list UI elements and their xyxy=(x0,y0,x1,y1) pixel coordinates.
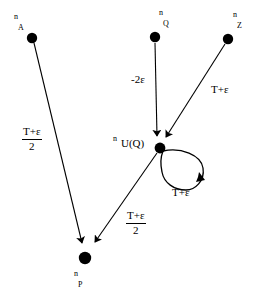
fraction-a-to-p: T+ε 2 xyxy=(22,126,42,152)
node-label-p-sub: P xyxy=(78,280,82,289)
edge-label-z-to-uq-text: T+ε xyxy=(211,83,229,95)
edge-uq-self-loop xyxy=(161,150,203,190)
diagram-canvas: nA nQ nZ nU(Q) nP T+ε 2 -2ε T+ε T+ε 2 T+… xyxy=(0,0,265,299)
node-label-a: nA xyxy=(14,14,24,30)
node-label-p-sup: n xyxy=(74,269,78,278)
node-p-dot[interactable] xyxy=(79,252,91,264)
fraction-denominator: 2 xyxy=(126,224,146,237)
fraction-uq-to-p: T+ε 2 xyxy=(126,210,146,236)
node-label-a-sub: A xyxy=(18,23,24,32)
edge-label-self-loop: T+ε xyxy=(172,187,190,198)
node-z-dot[interactable] xyxy=(223,34,233,44)
node-q-dot[interactable] xyxy=(150,32,160,42)
node-a-dot[interactable] xyxy=(27,33,37,43)
edge-label-z-to-uq: T+ε xyxy=(211,84,229,95)
node-label-z: nZ xyxy=(233,12,242,28)
node-label-q: nQ xyxy=(159,10,169,26)
edge-label-q-to-uq-text: -2ε xyxy=(131,73,145,85)
edge-label-uq-to-p: T+ε 2 xyxy=(126,210,146,236)
node-label-z-sub: Z xyxy=(237,21,242,30)
node-label-uq-main: U(Q) xyxy=(121,137,144,149)
node-label-z-sup: n xyxy=(233,10,237,19)
edge-label-a-to-p: T+ε 2 xyxy=(22,126,42,152)
fraction-denominator: 2 xyxy=(22,140,42,153)
edge-label-q-to-uq: -2ε xyxy=(131,74,145,85)
fraction-numerator: T+ε xyxy=(126,210,146,224)
edge-label-self-loop-text: T+ε xyxy=(172,186,190,198)
node-label-p: nP xyxy=(74,271,82,287)
node-label-q-sub: Q xyxy=(163,19,169,28)
node-uq-dot[interactable] xyxy=(155,143,166,154)
node-label-a-sup: n xyxy=(14,12,18,21)
edge-q-to-uq xyxy=(155,43,157,136)
node-label-uq-sup: n xyxy=(113,134,117,143)
fraction-numerator: T+ε xyxy=(22,126,42,140)
node-label-q-sup: n xyxy=(159,8,163,17)
node-label-uq: nU(Q) xyxy=(113,136,144,149)
